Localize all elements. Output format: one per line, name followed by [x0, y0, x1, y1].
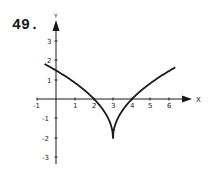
y-axis-label: Y — [53, 12, 58, 19]
y-tick-label: -2 — [42, 135, 49, 143]
y-tick-label: -1 — [42, 115, 49, 123]
x-axis-arrow-icon — [182, 96, 192, 103]
x-axis-label: X — [196, 96, 201, 104]
y-tick-label: 2 — [47, 57, 51, 65]
y-tick-label: -3 — [42, 154, 49, 162]
y-tick-label: 1 — [47, 77, 51, 85]
x-tick-label: -1 — [33, 102, 40, 110]
graph: X Y -1 1 2 3 4 5 6 3 2 1 -1 -2 -3 — [0, 0, 208, 171]
x-tick-label: 6 — [167, 102, 172, 110]
y-tick-label: 3 — [47, 38, 51, 46]
y-axis-arrow-icon — [53, 20, 60, 31]
function-curve — [45, 64, 176, 138]
x-tick-label: 3 — [111, 102, 115, 110]
x-tick-label: 5 — [148, 102, 152, 110]
x-tick-label: 1 — [73, 102, 77, 110]
x-tick-label: 2 — [92, 102, 96, 110]
x-tick-label: 4 — [130, 102, 135, 110]
